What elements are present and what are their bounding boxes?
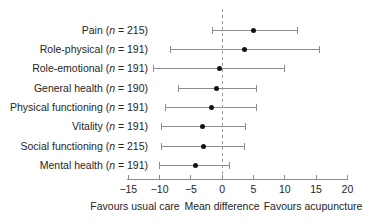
x-axis-tick — [347, 175, 348, 179]
ci-upper-cap — [284, 65, 285, 72]
forest-plot-figure: Pain (n = 215)Role-physical (n = 191)Rol… — [0, 0, 381, 224]
x-axis-tick-label: 20 — [342, 183, 354, 195]
point-estimate — [201, 144, 206, 149]
x-axis-tick-label: −5 — [185, 183, 197, 195]
point-estimate — [251, 28, 256, 33]
x-axis-tick-label: 10 — [279, 183, 291, 195]
row-label: Social functioning (n = 215) — [0, 140, 148, 153]
point-estimate — [242, 47, 247, 52]
ci-upper-cap — [319, 46, 320, 53]
x-axis-tick — [222, 175, 223, 179]
favours-acupuncture-label: Favours acupuncture — [264, 200, 363, 212]
ci-upper-cap — [245, 123, 246, 130]
ci-lower-cap — [178, 85, 179, 92]
ci-upper-cap — [297, 27, 298, 34]
x-axis-tick — [128, 175, 129, 179]
x-axis-tick-label: 15 — [310, 183, 322, 195]
x-axis-tick — [190, 175, 191, 179]
x-axis-tick-label: −10 — [151, 183, 169, 195]
point-estimate — [209, 105, 214, 110]
ci-upper-cap — [256, 104, 257, 111]
x-axis-tick — [284, 175, 285, 179]
zero-reference-line — [222, 9, 223, 179]
row-label: Physical functioning (n = 191) — [0, 101, 148, 114]
point-estimate — [214, 86, 219, 91]
ci-upper-cap — [256, 85, 257, 92]
ci-lower-cap — [153, 65, 154, 72]
row-label: Mental health (n = 191) — [0, 159, 148, 172]
x-axis-tick-label: 0 — [219, 183, 225, 195]
x-axis-tick-label: 5 — [251, 183, 257, 195]
x-axis-tick — [159, 175, 160, 179]
row-label: Pain (n = 215) — [0, 24, 148, 37]
x-axis-tick-label: −15 — [119, 183, 137, 195]
ci-lower-cap — [170, 46, 171, 53]
point-estimate — [193, 163, 198, 168]
row-label: Vitality (n = 191) — [0, 120, 148, 133]
ci-lower-cap — [161, 123, 162, 130]
ci-lower-cap — [161, 143, 162, 150]
x-axis-tick — [253, 175, 254, 179]
x-axis-tick — [316, 175, 317, 179]
row-label: General health (n = 190) — [0, 82, 148, 95]
row-label: Role-physical (n = 191) — [0, 43, 148, 56]
ci-lower-cap — [159, 162, 160, 169]
point-estimate — [200, 124, 205, 129]
row-label: Role-emotional (n = 191) — [0, 62, 148, 75]
mean-difference-axis-label: Mean difference — [184, 200, 259, 212]
x-axis-line — [127, 179, 348, 180]
ci-lower-cap — [212, 27, 213, 34]
ci-upper-cap — [229, 162, 230, 169]
favours-usual-care-label: Favours usual care — [90, 200, 179, 212]
ci-lower-cap — [165, 104, 166, 111]
ci-upper-cap — [244, 143, 245, 150]
